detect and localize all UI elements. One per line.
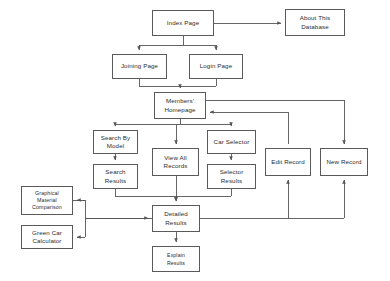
node-explain-results[interactable]: Explain Results [152, 246, 200, 272]
node-detailed-results[interactable]: Detailed Results [152, 205, 200, 232]
node-label: Explain Results [167, 251, 185, 267]
node-label: Car Selector [214, 138, 250, 146]
node-new-record[interactable]: New Record [320, 148, 368, 176]
node-green-car-calculator[interactable]: Green Car Calculator [21, 225, 73, 249]
edge-graphical-back-to-detailed [73, 200, 148, 218]
node-label: Joining Page [121, 62, 158, 70]
node-login-page[interactable]: Login Page [189, 54, 243, 79]
node-members-homepage[interactable]: Members' Homepage [154, 92, 206, 119]
edge-selectorresults-to-detailed [176, 189, 231, 196]
node-label: Login Page [200, 62, 233, 70]
node-selector-results[interactable]: Selector Results [207, 164, 256, 189]
flowchart-canvas: Index Page About This Database Joining P… [0, 0, 390, 281]
node-edit-record[interactable]: Edit Record [265, 148, 311, 176]
edge-index-bus [139, 36, 216, 45]
node-label: Selector Results [220, 168, 244, 184]
node-label: New Record [326, 158, 361, 166]
node-about-this-database[interactable]: About This Database [285, 9, 345, 36]
node-label: About This Database [300, 14, 331, 30]
node-label: Graphical Material Comparison [32, 190, 62, 212]
node-label: Search Results [105, 168, 126, 184]
node-label: Search By Model [101, 134, 131, 150]
node-label: Green Car Calculator [32, 229, 62, 245]
node-index-page[interactable]: Index Page [152, 10, 214, 36]
node-car-selector[interactable]: Car Selector [207, 130, 256, 154]
edge-login-down [180, 79, 216, 86]
node-search-results[interactable]: Search Results [93, 164, 138, 189]
edge-searchresults-to-detailed [115, 189, 176, 201]
edge-detailed-to-greencar [77, 218, 85, 237]
edge-members-fan-bus [115, 119, 231, 124]
node-label: Detailed Results [164, 210, 188, 226]
node-label: Members' Homepage [164, 97, 195, 113]
node-label: Edit Record [271, 158, 305, 166]
edge-detailed-to-graphical [77, 200, 85, 218]
node-graphical-material-comparison[interactable]: Graphical Material Comparison [21, 186, 73, 215]
edge-joining-down [139, 79, 180, 86]
node-view-all-records[interactable]: View All Records [152, 148, 199, 176]
node-search-by-model[interactable]: Search By Model [93, 130, 138, 154]
node-joining-page[interactable]: Joining Page [112, 54, 167, 79]
node-label: View All Records [164, 154, 188, 170]
node-label: Index Page [167, 19, 200, 27]
